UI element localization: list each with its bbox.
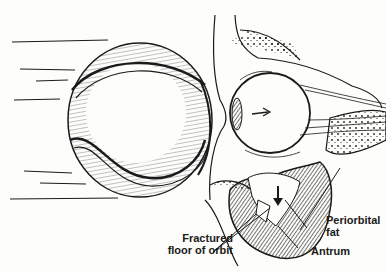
label-periorbital-line1: Periorbital bbox=[326, 214, 380, 226]
label-fractured-floor-line2: floor of orbit bbox=[163, 244, 233, 256]
label-fractured-floor: Fractured floor of orbit bbox=[163, 232, 233, 256]
ball bbox=[68, 43, 212, 197]
label-fractured-floor-line1: Fractured bbox=[163, 232, 233, 244]
label-antrum: Antrum bbox=[311, 245, 350, 257]
label-periorbital-fat: Periorbital fat bbox=[326, 214, 380, 238]
label-antrum-text: Antrum bbox=[311, 245, 350, 257]
antrum-sinus bbox=[229, 162, 331, 258]
illustration-canvas: Fractured floor of orbit Periorbital fat… bbox=[0, 0, 386, 272]
eyeball bbox=[230, 73, 310, 153]
label-periorbital-line2: fat bbox=[326, 226, 380, 238]
